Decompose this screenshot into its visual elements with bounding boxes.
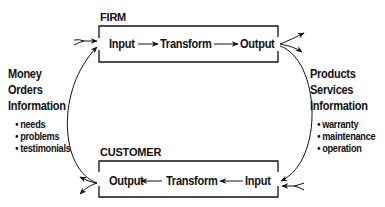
left-flow-line: Money (8, 66, 71, 82)
firm-input-node: Input (109, 37, 135, 51)
firm-title: FIRM (100, 11, 126, 23)
left-flow-bullets: needs problems testimonials (8, 119, 71, 155)
right-bullet-item: operation (317, 143, 375, 155)
left-flow-label: Money Orders Information needs problems … (8, 66, 71, 155)
right-flow-label: Products Services Information warranty m… (310, 66, 375, 155)
firm-output-node: Output (240, 37, 275, 51)
customer-transform-node: Transform (166, 174, 218, 188)
customer-input-node: Input (245, 174, 271, 188)
customer-output-node: Output (109, 174, 144, 188)
firm-customer-exchange-diagram: FIRM Input Transform Output CUSTOMER Out… (0, 0, 385, 207)
firm-transform-node: Transform (160, 37, 212, 51)
right-flow-line: Services (310, 82, 375, 98)
left-flow-line: Information (8, 98, 71, 114)
right-bullet-item: warranty (317, 119, 375, 131)
left-bullet-item: problems (15, 131, 70, 143)
left-bullet-item: needs (15, 119, 70, 131)
left-flow-line: Orders (8, 82, 71, 98)
right-flow-line: Information (310, 98, 375, 114)
right-bullet-item: maintenance (317, 131, 375, 143)
customer-title: CUSTOMER (100, 146, 161, 158)
left-bullet-item: testimonials (15, 143, 70, 155)
right-flow-bullets: warranty maintenance operation (310, 119, 375, 155)
right-flow-line: Products (310, 66, 375, 82)
